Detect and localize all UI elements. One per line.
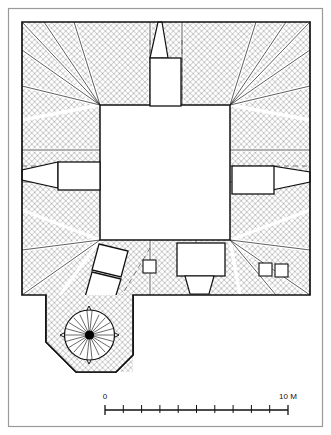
small-cell-right [275,264,288,277]
bastion-centre-point [85,330,94,339]
small-cell-left [259,263,272,276]
small-cell-single [143,260,156,273]
west-chamber-room [58,162,100,190]
south-chamber-room [177,243,225,276]
plan-svg: 0 10 M [0,0,331,435]
scale-bar-start-label: 0 [103,392,108,401]
north-chamber-room [150,58,181,106]
south-chamber-neck [185,276,214,294]
architectural-plan-figure: 0 10 M [0,0,331,435]
central-courtyard [100,105,230,240]
scale-bar-end-label: 10 M [279,392,297,401]
east-chamber-room [232,166,274,194]
